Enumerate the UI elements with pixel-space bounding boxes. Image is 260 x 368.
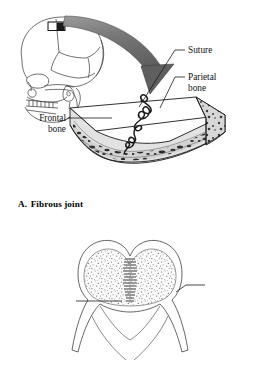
pubic-symphysis-illustration [0,230,260,368]
panel-a-caption: A.Fibrous joint [18,199,83,209]
bone-block-cross-section [70,95,225,163]
label-frontal-bone: Frontal bone [12,113,66,134]
region-marker-box [48,22,65,31]
label-parietal-line2: bone [188,83,206,93]
curved-arrow-icon [63,16,174,94]
panel-a-caption-letter: A. [18,199,27,209]
label-suture: Suture [188,45,212,56]
panel-cartilaginous-joint: Fibrocartilage Pubis [0,230,260,368]
label-frontal-line1: Frontal [39,113,66,123]
label-parietal-bone: Parietal bone [188,72,252,93]
label-parietal-line1: Parietal [188,72,216,82]
panel-fibrous-joint: Suture Parietal bone Frontal bone [0,0,260,222]
anatomy-figure: Suture Parietal bone Frontal bone A.Fibr… [0,0,260,368]
label-suture-text: Suture [188,45,212,55]
pubic-arch-curves [92,306,168,360]
fibrous-joint-illustration [0,0,260,222]
label-frontal-line2: bone [48,124,66,134]
panel-a-caption-text: Fibrous joint [31,199,83,209]
